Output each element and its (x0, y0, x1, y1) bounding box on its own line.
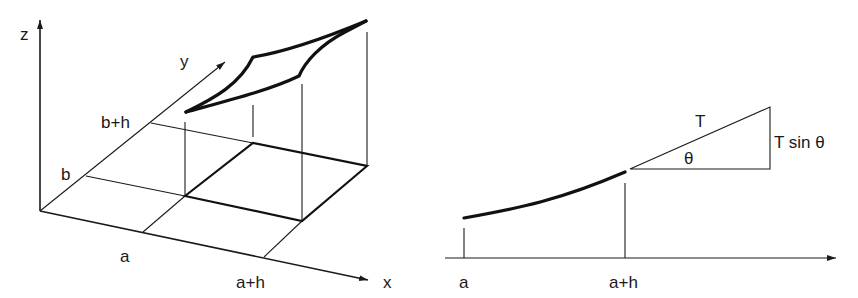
x-axis-label: x (383, 273, 392, 292)
diagram-canvas: z y x b b+h a a+h T θ T sin θ a a+h (0, 0, 858, 298)
string-tension-figure: T θ T sin θ a a+h (445, 107, 836, 292)
y-axis (40, 62, 225, 211)
grid-line-y-b (86, 176, 185, 196)
x-tick-ah: a+h (236, 273, 265, 292)
surface-3d-figure: z y x b b+h a a+h (20, 20, 392, 292)
angle-label: θ (684, 149, 693, 168)
grid-line-x-a (143, 196, 185, 232)
base-square (185, 143, 367, 221)
y-axis-label: y (180, 52, 189, 71)
z-axis-label: z (20, 25, 29, 44)
y-tick-b: b (61, 165, 70, 184)
tick-label-a: a (459, 273, 469, 292)
tick-label-ah: a+h (609, 273, 638, 292)
x-tick-a: a (120, 247, 130, 266)
vertical-component-label: T sin θ (774, 133, 825, 152)
grid-line-x-ah (264, 221, 302, 257)
y-tick-bh: b+h (101, 113, 130, 132)
x-axis (40, 211, 368, 280)
tension-label: T (695, 112, 705, 131)
string-curve (464, 172, 625, 218)
grid-line-y-bh (151, 123, 253, 143)
